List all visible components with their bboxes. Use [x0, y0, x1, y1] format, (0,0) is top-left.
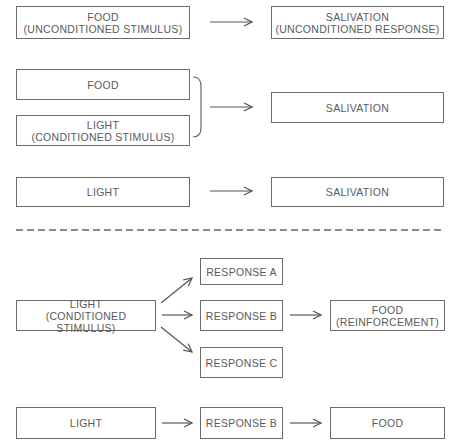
light-conditioned-stimulus-box: LIGHT (CONDITIONED STIMULUS) — [16, 300, 156, 331]
response-b-box: RESPONSE B — [200, 407, 283, 439]
box-label: RESPONSE B — [206, 310, 277, 322]
box-sublabel: (REINFORCEMENT) — [336, 316, 439, 328]
light-box: LIGHT — [16, 177, 190, 207]
box-label: SALIVATION — [326, 186, 389, 198]
box-label: SALIVATION — [326, 102, 389, 114]
box-label: LIGHT — [87, 119, 119, 131]
box-label: FOOD — [372, 417, 404, 429]
food-reinforcement-box: FOOD (REINFORCEMENT) — [330, 300, 445, 331]
box-label: FOOD — [372, 304, 404, 316]
box-label: LIGHT — [70, 298, 102, 310]
box-label: LIGHT — [87, 186, 119, 198]
box-label: RESPONSE B — [206, 417, 277, 429]
bracket-icon — [193, 77, 201, 137]
box-sublabel: (UNCONDITIONED RESPONSE) — [275, 23, 439, 35]
response-a-box: RESPONSE A — [200, 258, 283, 285]
box-sublabel: (CONDITIONED STIMULUS) — [17, 310, 155, 334]
box-label: FOOD — [87, 79, 119, 91]
light-conditioned-stimulus-box: LIGHT (CONDITIONED STIMULUS) — [16, 115, 190, 146]
box-sublabel: (CONDITIONED STIMULUS) — [31, 131, 174, 143]
light-box: LIGHT — [16, 407, 156, 439]
box-label: SALIVATION — [326, 11, 389, 23]
salivation-box: SALIVATION — [271, 177, 444, 207]
response-c-box: RESPONSE C — [200, 347, 283, 378]
box-label: RESPONSE C — [206, 357, 278, 369]
food-box: FOOD — [16, 69, 190, 100]
connector-layer — [0, 0, 458, 446]
salivation-box: SALIVATION — [271, 92, 444, 123]
salivation-unconditioned-response-box: SALIVATION (UNCONDITIONED RESPONSE) — [271, 6, 444, 39]
box-label: RESPONSE A — [206, 266, 277, 278]
box-label: LIGHT — [70, 417, 102, 429]
response-b-box: RESPONSE B — [200, 300, 283, 331]
box-label: FOOD — [87, 11, 119, 23]
food-box: FOOD — [330, 407, 445, 439]
box-sublabel: (UNCONDITIONED STIMULUS) — [24, 23, 183, 35]
arrow-icon — [161, 327, 192, 352]
arrow-icon — [161, 278, 192, 303]
food-unconditioned-stimulus-box: FOOD (UNCONDITIONED STIMULUS) — [16, 6, 190, 39]
